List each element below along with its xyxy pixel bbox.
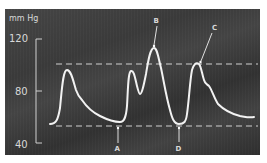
marker-a: A [115,127,121,153]
y-tick-40: 40 [15,139,28,150]
marker-b-label: B [154,17,159,25]
marker-b: B [153,17,159,47]
y-axis-unit-label: mm Hg [9,14,38,23]
marker-c: C [199,24,217,63]
marker-d-label: D [176,145,182,153]
marker-c-label: C [212,24,217,32]
marker-d: D [176,127,182,153]
pressure-waveform-figure: mm Hg 120 80 40 A B C D [0,0,267,163]
y-tick-80: 80 [15,86,28,97]
y-axis-bracket [36,39,42,143]
pressure-trace [50,48,254,124]
y-tick-120: 120 [9,33,28,44]
marker-a-label: A [115,145,121,153]
